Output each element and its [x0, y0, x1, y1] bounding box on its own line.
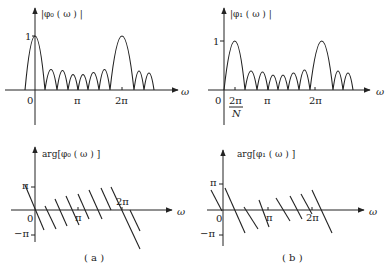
origin-label: 0 [27, 95, 33, 106]
phase-y-label: arg[φ₁ ( ω ) ] [237, 149, 295, 159]
y-tick-label-1: 1 [213, 36, 219, 47]
y-tick-label-1: 1 [25, 31, 31, 42]
y-tick-label-neg-pi: −π [14, 228, 29, 239]
magnitude-y-label: |φ₀ ( ω ) | [41, 9, 83, 20]
x-tick-label-2pi: 2π [306, 212, 319, 223]
y-tick-label-pi: π [22, 180, 29, 191]
x-axis-label-omega: ω [177, 206, 185, 217]
x-tick-label-2pi-numerator: 2π [229, 95, 242, 106]
panel-a-magnitude-plot: |φ₀ ( ω ) | 1 0 π 2π ω [5, 8, 189, 125]
panel-a-phase-plot: arg[φ₀ ( ω ) ] π −π 0 π 2π ω [11, 147, 185, 249]
caption-a: ( a ) [84, 252, 104, 263]
magnitude-curve [25, 36, 154, 90]
phase-y-label: arg[φ₀ ( ω ) ] [42, 149, 100, 159]
x-tick-label-pi: π [74, 95, 81, 106]
x-tick-label-2pi: 2π [115, 95, 128, 106]
x-tick-label-pi: π [75, 212, 82, 223]
x-tick-label-2pi: 2π [116, 196, 129, 207]
y-tick-label-pi: π [210, 177, 217, 188]
x-tick-label-pi: π [266, 212, 273, 223]
magnitude-curve [224, 41, 353, 90]
x-tick-label-pi: π [264, 95, 271, 106]
caption-b: ( b ) [282, 252, 303, 263]
origin-label: 0 [27, 213, 33, 224]
origin-label: 0 [216, 213, 222, 224]
x-tick-label-2pi: 2π [309, 95, 322, 106]
x-tick-label-n-denominator: N [231, 108, 242, 119]
diagram-canvas: |φ₀ ( ω ) | 1 0 π 2π ω |φ₁ ( ω ) | 1 0 2… [0, 0, 386, 265]
phase-segments [25, 185, 140, 249]
x-axis-label-omega: ω [369, 206, 377, 217]
panel-b-magnitude-plot: |φ₁ ( ω ) | 1 0 2π N π 2π ω [208, 8, 384, 125]
panel-b-phase-plot: arg[φ₁ ( ω ) ] π −π 0 π 2π ω [200, 149, 377, 246]
x-axis-label-omega: ω [376, 86, 384, 97]
y-tick-label-neg-pi: −π [200, 228, 215, 239]
x-axis-label-omega: ω [181, 86, 189, 97]
magnitude-y-label: |φ₁ ( ω ) | [230, 9, 272, 20]
origin-label: 0 [215, 95, 221, 106]
